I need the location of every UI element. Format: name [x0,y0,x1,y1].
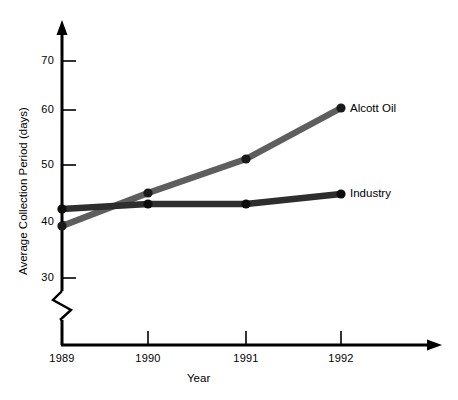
y-axis-ticks [62,61,76,278]
chart-container: 70 60 50 40 30 1989 1990 1991 1992 Avera… [0,0,458,400]
data-point [241,199,250,208]
chart-plot-area [0,0,458,400]
y-axis-title: Average Collection Period (days) [17,107,29,275]
x-axis-title: Year [187,372,210,384]
x-tick-label-1990: 1990 [120,352,176,364]
x-axis-arrow-icon [427,340,442,351]
data-point [241,154,250,163]
series-line-industry [62,194,341,209]
y-axis-break-icon [53,291,71,320]
data-point [336,103,345,112]
data-point [336,189,345,198]
x-tick-label-1992: 1992 [313,352,369,364]
x-axis-ticks [148,331,341,345]
data-point [57,204,66,213]
x-tick-label-1989: 1989 [34,352,90,364]
y-axis-arrow-icon [57,20,68,35]
data-point [143,188,152,197]
data-point [57,221,66,230]
x-tick-label-1991: 1991 [218,352,274,364]
series-label-alcott-oil: Alcott Oil [350,102,396,114]
y-tick-label-70: 70 [22,54,54,66]
series-label-industry: Industry [350,187,391,199]
data-point [143,199,152,208]
